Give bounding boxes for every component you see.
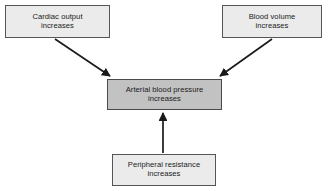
- node-peripheral-resistance-label: Peripheral resistance increases: [128, 161, 200, 179]
- node-blood-volume: Blood volume increases: [222, 5, 322, 38]
- node-peripheral-resistance: Peripheral resistance increases: [112, 154, 216, 186]
- node-cardiac-output-label: Cardiac output increases: [32, 13, 82, 31]
- node-cardiac-output: Cardiac output increases: [5, 5, 110, 38]
- node-blood-volume-label: Blood volume increases: [249, 13, 296, 31]
- node-arterial-blood-pressure-label: Arterial blood pressure increases: [126, 86, 204, 104]
- edge-cardiac-to-bp: [55, 39, 110, 76]
- edge-volume-to-bp: [220, 39, 272, 76]
- node-arterial-blood-pressure: Arterial blood pressure increases: [107, 79, 222, 110]
- flow-diagram: Cardiac output increases Blood volume in…: [0, 0, 328, 191]
